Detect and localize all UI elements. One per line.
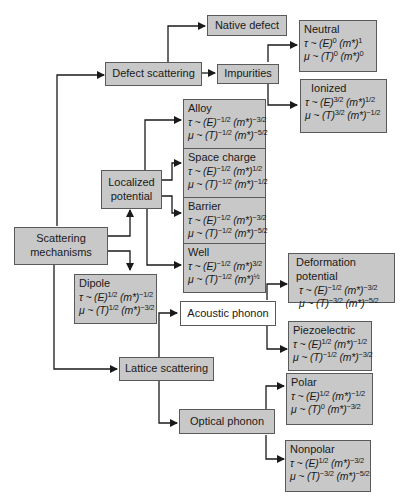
alloy-title: Alloy bbox=[188, 102, 261, 116]
dipole-mu: μ ~ (T)1/2 (m*)−3/2 bbox=[79, 304, 152, 317]
ionized-box: Ionized τ ~ (E)3/2 (m*)1/2 μ ~ (T)3/2 (m… bbox=[300, 79, 387, 133]
piezoelectric-title: Piezoelectric bbox=[293, 324, 367, 338]
nonpolar-title: Nonpolar bbox=[290, 443, 366, 457]
space-charge-box: Space charge τ ~ (E)−1/2 (m*)1/2 μ ~ (T)… bbox=[183, 148, 266, 198]
barrier-title: Barrier bbox=[188, 200, 261, 214]
polar-mu: μ ~ (T)0 (m*)−3/2 bbox=[291, 403, 368, 416]
dipole-title: Dipole bbox=[79, 277, 152, 291]
neutral-title: Neutral bbox=[304, 23, 372, 37]
impurities-node: Impurities bbox=[217, 64, 279, 84]
localized-potential-node: Localized potential bbox=[101, 170, 162, 209]
polar-title: Polar bbox=[291, 376, 368, 390]
neutral-mu: μ ~ (T)0 (m*)0 bbox=[304, 50, 372, 63]
ionized-mu: μ ~ (T)3/2 (m*)−1/2 bbox=[305, 109, 382, 122]
well-title: Well bbox=[188, 246, 261, 260]
defect-scattering-node: Defect scattering bbox=[105, 62, 202, 86]
polar-box: Polar τ ~ (E)1/2 (m*)−1/2 μ ~ (T)0 (m*)−… bbox=[286, 373, 373, 425]
alloy-mu: μ ~ (T)−1/2 (m*)−5/2 bbox=[188, 129, 261, 142]
deformation-potential-box: Deformation potential τ ~ (E)−1/2 (m*)−3… bbox=[288, 253, 395, 303]
well-mu: μ ~ (T)−1/2 (m*)½ bbox=[188, 273, 261, 286]
ionized-title: Ionized bbox=[305, 82, 382, 96]
lattice-scattering-node: Lattice scattering bbox=[119, 357, 214, 381]
dipole-box: Dipole τ ~ (E)1/2 (m*)−1/2 μ ~ (T)1/2 (m… bbox=[74, 274, 157, 324]
alloy-box: Alloy τ ~ (E)−1/2 (m*)−3/2 μ ~ (T)−1/2 (… bbox=[183, 99, 266, 150]
space-charge-title: Space charge bbox=[188, 151, 261, 165]
acoustic-phonon-node: Acoustic phonon bbox=[180, 301, 276, 326]
nonpolar-box: Nonpolar τ ~ (E)1/2 (m*)−3/2 μ ~ (T)−3/2… bbox=[285, 440, 371, 492]
piezoelectric-box: Piezoelectric τ ~ (E)1/2 (m*)−1/2 μ ~ (T… bbox=[288, 321, 372, 371]
well-box: Well τ ~ (E)−1/2 (m*)3/2 μ ~ (T)−1/2 (m*… bbox=[183, 243, 266, 293]
scattering-mechanisms-node: Scattering mechanisms bbox=[14, 227, 108, 265]
deformation-potential-title: Deformation potential bbox=[293, 256, 390, 284]
deformation-potential-mu: μ ~ (T)−3/2 (m*)−5/2 bbox=[293, 297, 390, 310]
piezoelectric-mu: μ ~ (T)−1/2 (m*)−3/2 bbox=[293, 351, 367, 364]
barrier-mu: μ ~ (T)−1/2 (m*)−5/2 bbox=[188, 227, 261, 240]
optical-phonon-node: Optical phonon bbox=[179, 409, 275, 434]
native-defect-node: Native defect bbox=[207, 15, 287, 36]
neutral-box: Neutral τ ~ (E)0 (m*)1 μ ~ (T)0 (m*)0 bbox=[299, 20, 377, 72]
barrier-box: Barrier τ ~ (E)−1/2 (m*)−3/2 μ ~ (T)−1/2… bbox=[183, 197, 266, 247]
space-charge-mu: μ ~ (T)−1/2 (m*)−1/2 bbox=[188, 178, 261, 191]
nonpolar-mu: μ ~ (T)−3/2 (m*)−5/2 bbox=[290, 470, 366, 483]
